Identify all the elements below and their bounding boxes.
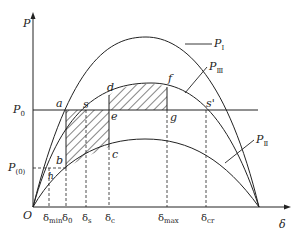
p3-leader [185, 67, 207, 93]
point-c: c [112, 148, 118, 161]
tick-delta-s: δs [82, 212, 92, 225]
power-angle-diagram: P δ O PⅠ PⅢ PⅡ P0 P(0) a b c d e f g s s… [0, 0, 295, 232]
tick-delta-min: δmin [43, 212, 63, 225]
point-s: s [83, 98, 89, 111]
tick-delta-c: δc [105, 212, 115, 225]
p0-init-label: P(0) [7, 161, 26, 176]
point-b: b [56, 154, 63, 167]
point-a: a [56, 97, 63, 110]
origin-label: O [23, 209, 32, 222]
tick-delta-max: δmax [158, 212, 179, 225]
point-g: g [170, 111, 177, 124]
x-axis-arrow-icon [284, 205, 291, 210]
curve-p1-label: PⅠ [213, 37, 224, 52]
point-s-prime: s' [206, 97, 215, 110]
curve-p3-label: PⅢ [208, 60, 223, 75]
x-axis-label: δ [279, 218, 286, 231]
y-axis-label: P [22, 17, 31, 30]
acceleration-area [66, 110, 109, 168]
point-f: f [167, 72, 174, 85]
point-d: d [107, 81, 114, 94]
p2-leader [225, 140, 254, 163]
point-e: e [111, 110, 118, 123]
y-axis-arrow-icon [31, 12, 36, 19]
point-h: h [48, 171, 54, 181]
tick-delta-0: δ0 [62, 212, 73, 225]
curve-p2-label: PⅡ [255, 133, 268, 148]
p0-label: P0 [12, 103, 25, 118]
tick-delta-cr: δcr [201, 212, 215, 225]
